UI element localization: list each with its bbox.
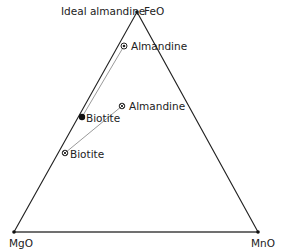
point-label-biotite-lower: Biotite bbox=[70, 148, 104, 160]
vertex-mgo-label: MgO bbox=[9, 237, 33, 249]
vertex-mno-dot bbox=[256, 230, 260, 234]
point-biotite-lower bbox=[62, 150, 68, 156]
point-almandine-lower bbox=[119, 103, 125, 109]
point-biotite-upper bbox=[79, 114, 85, 120]
ternary-diagram: Ideal almandine FeO MgO MnO Almandine Al… bbox=[0, 0, 283, 251]
vertex-mno-label: MnO bbox=[251, 237, 275, 249]
point-almandine-upper bbox=[121, 43, 127, 49]
point-label-almandine-upper: Almandine bbox=[131, 40, 187, 52]
point-label-biotite-upper: Biotite bbox=[86, 112, 120, 124]
point-label-almandine-lower: Almandine bbox=[129, 100, 185, 112]
vertex-mgo-dot bbox=[12, 230, 16, 234]
ideal-almandine-label: Ideal almandine bbox=[61, 5, 145, 17]
tie-line-1 bbox=[82, 46, 124, 117]
vertex-feo-label: FeO bbox=[144, 5, 164, 17]
